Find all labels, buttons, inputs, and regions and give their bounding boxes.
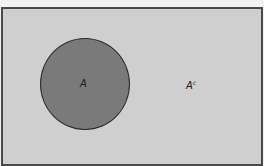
complement-label: Ac <box>186 79 196 91</box>
complement-superscript: c <box>193 79 196 86</box>
universal-set-rectangle: A Ac <box>1 7 263 166</box>
complement-base: A <box>186 80 193 91</box>
set-a-label: A <box>80 78 87 89</box>
